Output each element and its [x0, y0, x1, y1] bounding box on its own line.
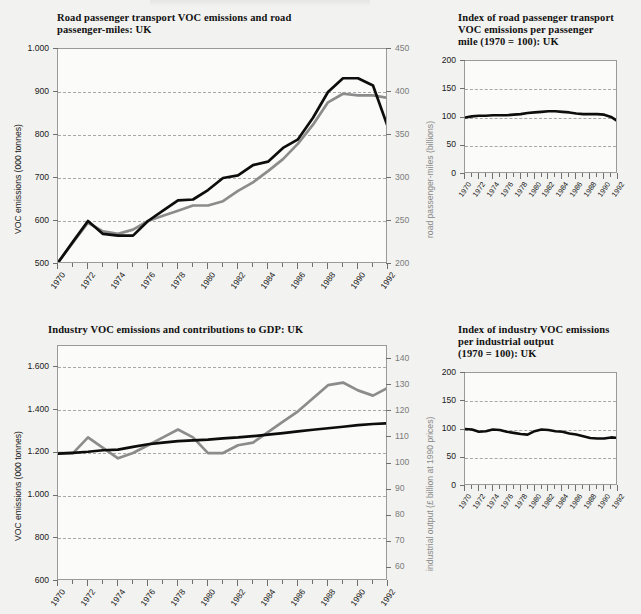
x-axis-tick [267, 580, 268, 586]
x-axis-tick [72, 580, 73, 584]
chart-panel-index-industry-voc: Index of industry VOC emissions per indu… [440, 310, 641, 614]
chart-title-line-2: passenger-miles: UK [57, 24, 387, 36]
series-layer [58, 49, 387, 263]
x-axis-tick [327, 263, 328, 269]
x-axis-tick [554, 485, 555, 489]
x-axis-tick [312, 580, 313, 584]
x-axis-tick [117, 580, 118, 586]
x-axis-tick [207, 580, 208, 586]
x-axis-tick [603, 485, 604, 491]
y-axis-tick-label: 1.600 [9, 361, 49, 371]
y-axis-tick [53, 409, 58, 410]
x-axis-tick [506, 485, 507, 491]
y-axis-tick [53, 177, 58, 178]
x-axis-tick [492, 173, 493, 179]
y-axis-tick-label: 50 [416, 451, 456, 461]
x-axis-tick-label: 1970 [25, 587, 68, 614]
chart-title-index-industry: Index of industry VOC emissions per indu… [458, 324, 641, 361]
x-axis-tick [561, 173, 562, 179]
right-y-axis-tick-label: 200 [395, 258, 435, 268]
y-axis-tick [460, 400, 465, 401]
x-axis-tick [387, 580, 388, 586]
x-axis-tick [527, 485, 528, 489]
x-axis-tick [297, 580, 298, 586]
x-axis-tick [357, 263, 358, 269]
x-axis-tick [117, 263, 118, 269]
y-axis-title: VOC emissions (000 tonnes) [13, 431, 23, 541]
x-axis-tick [520, 173, 521, 179]
right-y-axis-tick [386, 91, 391, 92]
y-axis-tick-label: 50 [416, 139, 456, 149]
x-axis-tick [192, 263, 193, 267]
x-axis-tick [252, 263, 253, 267]
x-axis-tick [547, 173, 548, 179]
x-axis-tick [147, 580, 148, 586]
chart-panel-road-passenger-transport: Road passenger transport VOC emissions a… [0, 0, 440, 310]
right-y-axis-tick [386, 463, 391, 464]
chart-title-road-passenger: Road passenger transport VOC emissions a… [57, 12, 387, 36]
series-line [58, 423, 387, 453]
x-axis-tick [603, 173, 604, 179]
series-layer [465, 61, 617, 173]
x-axis-tick [282, 580, 283, 584]
x-axis-tick [237, 580, 238, 586]
y-axis-tick [460, 457, 465, 458]
right-y-axis-tick [386, 515, 391, 516]
right-y-axis-tick [386, 48, 391, 49]
y-axis-tick-label: 0 [416, 168, 456, 178]
y-axis-tick-label: 0 [416, 480, 456, 490]
x-axis-tick [312, 263, 313, 267]
x-axis-tick [282, 263, 283, 267]
plot-frame [57, 48, 387, 263]
x-axis-tick [568, 485, 569, 489]
x-axis-tick [237, 263, 238, 269]
x-axis-tick [589, 485, 590, 491]
y-axis-title: VOC emissions (000 tonnes) [13, 124, 23, 234]
y-axis-tick [460, 145, 465, 146]
x-axis-tick [192, 580, 193, 584]
y-axis-tick [53, 366, 58, 367]
x-axis-tick [267, 263, 268, 269]
y-axis-tick [460, 372, 465, 373]
x-axis-tick [252, 580, 253, 584]
plot-area-road-passenger: 5006007008009001.00020025030035040045019… [57, 48, 387, 263]
right-y-axis-tick [386, 410, 391, 411]
x-axis-tick [132, 263, 133, 267]
right-y-axis-tick [386, 541, 391, 542]
series-line [465, 429, 617, 439]
x-axis-tick [513, 173, 514, 177]
y-axis-tick [53, 48, 58, 49]
x-axis-tick [499, 173, 500, 177]
x-axis-tick [207, 263, 208, 269]
right-y-axis-tick [386, 489, 391, 490]
chart-title-line-3: (1970 = 100): UK [458, 348, 641, 360]
right-y-axis-tick-label: 450 [395, 43, 435, 53]
x-axis-tick [57, 263, 58, 269]
right-y-axis-title: road passenger-miles (billions) [425, 120, 435, 237]
y-axis-tick [53, 537, 58, 538]
x-axis-tick [478, 485, 479, 491]
x-axis-tick [162, 263, 163, 267]
x-axis-tick [222, 580, 223, 584]
x-axis-tick [513, 485, 514, 489]
plot-area-index-industry: 0501001502001970197219741976197819801982… [464, 372, 617, 485]
y-axis-tick [460, 429, 465, 430]
right-y-axis-tick-label: 130 [395, 379, 435, 389]
y-axis-tick-label: 150 [416, 83, 456, 93]
x-axis-tick [372, 263, 373, 267]
right-y-axis-tick [386, 436, 391, 437]
x-axis-tick [527, 173, 528, 177]
figure-page: Road passenger transport VOC emissions a… [0, 0, 641, 614]
series-line [58, 78, 387, 262]
x-axis-tick [547, 485, 548, 491]
x-axis-tick [132, 580, 133, 584]
x-axis-tick [596, 485, 597, 489]
x-axis-tick [617, 173, 618, 179]
x-axis-tick [102, 263, 103, 267]
x-axis-tick [541, 173, 542, 177]
plot-area-industry-voc: 6008001.0001.2001.4001.60060708090100110… [57, 345, 387, 580]
x-axis-tick [534, 485, 535, 491]
x-axis-tick [596, 173, 597, 177]
y-axis-tick-label: 900 [9, 86, 49, 96]
y-axis-tick [53, 220, 58, 221]
